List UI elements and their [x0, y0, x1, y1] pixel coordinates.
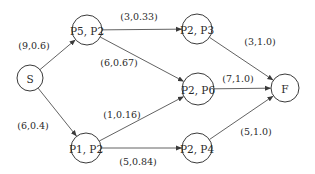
state-transition-diagram: (9,0.6)(6,0.4)(3,0.33)(6,0.67)(1,0.16)(5… [0, 0, 315, 174]
edge-P2P4-to-F: (5,1.0) [209, 96, 273, 139]
edge-label: (6,0.67) [100, 57, 138, 68]
edge-label: (5,0.84) [119, 156, 157, 167]
edge-S-to-P1P2: (6,0.4) [17, 88, 76, 136]
node-label: P5, P2 [70, 25, 104, 37]
edge-label: (3,0.33) [120, 11, 158, 22]
edge-label: (3,1.0) [244, 36, 276, 47]
edge-P5P2-to-P2P6: (6,0.67) [100, 37, 183, 81]
node-S: S [17, 65, 43, 91]
node-P2P3: P2, P3 [180, 14, 214, 44]
node-F: F [271, 74, 299, 102]
edge-P1P2-to-P2P6: (1,0.16) [99, 97, 183, 141]
node-label: P2, P4 [180, 143, 214, 155]
node-label: P2, P6 [181, 84, 215, 96]
node-label: P2, P3 [180, 24, 214, 36]
edge-arrow [214, 88, 271, 89]
node-label: F [281, 83, 288, 95]
edge-P1P2-to-P2P4: (5,0.84) [101, 148, 182, 167]
node-label: P1, P2 [69, 143, 103, 155]
edge-label: (6,0.4) [17, 120, 49, 131]
edge-arrow [102, 29, 182, 30]
edge-label: (5,1.0) [240, 126, 272, 137]
edge-label: (7,1.0) [222, 73, 254, 84]
edge-label: (9,0.6) [18, 40, 50, 51]
node-P2P6: P2, P6 [181, 73, 215, 105]
node-P2P4: P2, P4 [180, 133, 214, 163]
edges-layer: (9,0.6)(6,0.4)(3,0.33)(6,0.67)(1,0.16)(5… [17, 11, 276, 167]
edge-label: (1,0.16) [103, 109, 141, 120]
node-P1P2: P1, P2 [69, 133, 103, 163]
edge-P2P6-to-F: (7,1.0) [214, 73, 271, 89]
edge-P5P2-to-P2P3: (3,0.33) [102, 11, 182, 30]
node-label: S [26, 73, 33, 85]
